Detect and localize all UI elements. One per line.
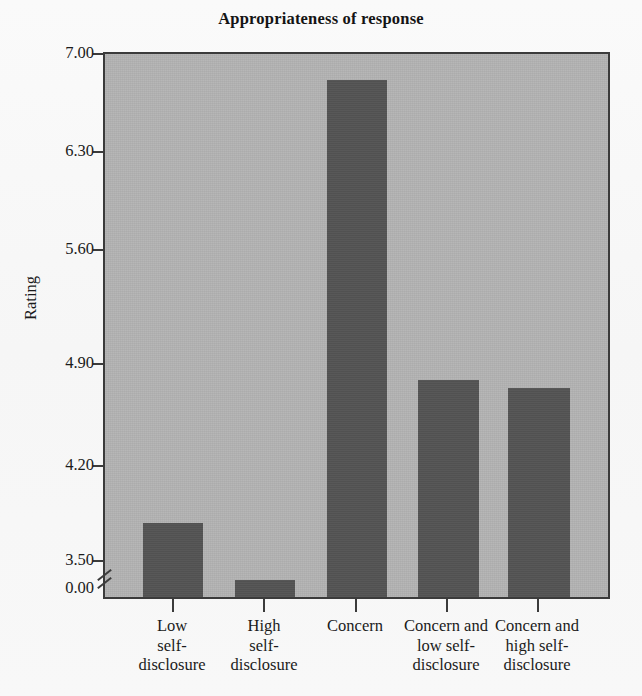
- x-tick-label-concern-and-high-self-disclosure: Concern and high self- disclosure: [478, 616, 596, 675]
- y-tick-mark-3-50: [93, 560, 103, 562]
- y-tick-label-6-30: 6.30: [32, 143, 94, 159]
- y-tick-label-4-20: 4.20: [32, 457, 94, 473]
- x-tick-mark-3: [355, 599, 357, 612]
- x-tick-mark-4: [446, 599, 448, 612]
- x-tick-mark-2: [263, 599, 265, 612]
- y-tick-label-7-00: 7.00: [32, 45, 94, 61]
- bar-low-self-disclosure: [143, 523, 203, 597]
- x-label-line-3: disclosure: [478, 655, 596, 675]
- x-label-line-2: high self-: [478, 636, 596, 656]
- plot-area: [103, 52, 610, 599]
- bar-concern-and-low-self-disclosure: [418, 380, 479, 597]
- y-tick-mark-7-00: [93, 53, 103, 55]
- x-tick-mark-1: [172, 599, 174, 612]
- y-axis-break-icon: [96, 568, 116, 590]
- x-label-line-3: disclosure: [207, 655, 321, 675]
- y-tick-mark-6-30: [93, 151, 103, 153]
- x-tick-mark-5: [537, 599, 539, 612]
- y-tick-label-3-50: 3.50: [32, 552, 94, 568]
- bar-concern-and-high-self-disclosure: [508, 388, 570, 597]
- y-tick-mark-4-20: [93, 465, 103, 467]
- y-axis-tick-labels: 7.00 6.30 5.60 4.90 4.20 3.50 0.00: [22, 0, 94, 696]
- x-label-line-2: self-: [207, 636, 321, 656]
- y-tick-label-5-60: 5.60: [32, 241, 94, 257]
- chart-page: Appropriateness of response 7.00 6.30 5.…: [0, 0, 642, 696]
- bar-concern: [327, 80, 387, 597]
- x-label-line-1: Concern and: [478, 616, 596, 636]
- bar-high-self-disclosure: [235, 580, 295, 597]
- y-tick-mark-5-60: [93, 249, 103, 251]
- chart-title: Appropriateness of response: [0, 9, 642, 29]
- y-tick-label-4-90: 4.90: [32, 355, 94, 371]
- y-tick-mark-4-90: [93, 363, 103, 365]
- y-tick-label-0-00: 0.00: [32, 580, 94, 596]
- y-axis-title: Rating: [21, 253, 41, 343]
